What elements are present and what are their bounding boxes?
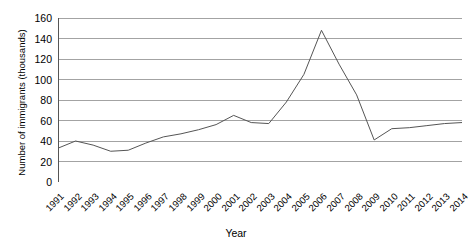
y-tick-label: 40 xyxy=(26,136,52,147)
y-tick-label: 80 xyxy=(26,95,52,106)
y-tick-label: 20 xyxy=(26,157,52,168)
y-tick-label: 100 xyxy=(26,75,52,86)
x-axis-title: Year xyxy=(0,227,472,239)
y-tick-label: 160 xyxy=(26,13,52,24)
plot-area xyxy=(58,18,462,182)
chart-canvas xyxy=(58,18,462,182)
y-tick-label: 60 xyxy=(26,116,52,127)
y-tick-label: 120 xyxy=(26,54,52,65)
line-chart: Number of immigrants (thousands) 0204060… xyxy=(0,0,472,251)
data-series-line xyxy=(58,30,462,151)
y-tick-label: 0 xyxy=(26,177,52,188)
y-tick-label: 140 xyxy=(26,34,52,45)
